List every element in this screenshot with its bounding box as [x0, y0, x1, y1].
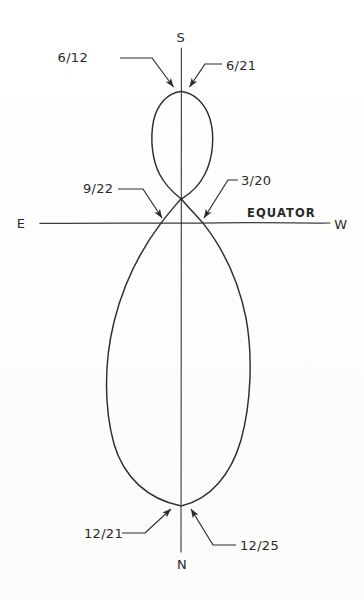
analemma-figure-page: 6/12 6/21 9/22 3/20 12/21 12/25 S N E W … — [0, 0, 364, 600]
analemma-upper-loop-right — [182, 92, 213, 199]
label-3-20: 3/20 — [241, 173, 271, 188]
leader-3-20 — [204, 180, 238, 218]
leader-9-22 — [118, 189, 162, 218]
annotation-leaders — [118, 58, 238, 545]
analemma-diagram: 6/12 6/21 9/22 3/20 12/21 12/25 S N E W … — [0, 0, 364, 600]
leader-6-12 — [120, 58, 174, 87]
figure-labels: 6/12 6/21 9/22 3/20 12/21 12/25 S N E W … — [17, 30, 348, 572]
analemma-lower-loop-right — [182, 199, 251, 506]
analemma-upper-loop-left — [152, 92, 181, 199]
equator-axis — [40, 223, 330, 224]
label-north: N — [177, 557, 187, 572]
analemma-lower-loop-left — [107, 199, 181, 506]
analemma-curve — [107, 92, 251, 506]
label-6-12: 6/12 — [58, 50, 88, 65]
label-6-21: 6/21 — [226, 58, 256, 73]
leader-6-21 — [190, 64, 223, 87]
label-equator: EQUATOR — [247, 206, 316, 220]
label-south: S — [177, 30, 186, 45]
label-east: E — [17, 216, 26, 231]
leader-12-21 — [122, 509, 171, 533]
equator-line — [40, 223, 330, 224]
label-12-21: 12/21 — [84, 526, 123, 541]
label-9-22: 9/22 — [83, 181, 113, 196]
label-12-25: 12/25 — [240, 538, 279, 553]
leader-12-25 — [191, 509, 236, 545]
label-west: W — [334, 217, 347, 232]
